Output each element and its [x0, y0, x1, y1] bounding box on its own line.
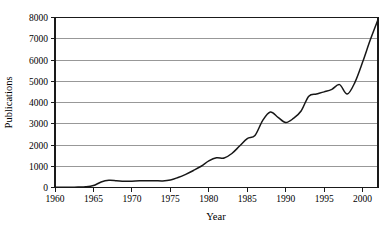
y-tick-label-8000: 8000	[29, 13, 48, 23]
y-tick-label-3000: 3000	[29, 119, 48, 129]
y-axis-title: Publications	[3, 77, 14, 129]
x-tick-label-1990: 1990	[276, 194, 295, 204]
y-tick-label-1000: 1000	[29, 162, 48, 172]
x-tick-label-1980: 1980	[199, 194, 218, 204]
y-tick-label-6000: 6000	[29, 56, 48, 66]
x-tick-labels: 1960 1965 1970 1975 1980 1985 1990 1995 …	[46, 194, 373, 204]
y-tickmarks	[51, 18, 55, 188]
y-tick-label-4000: 4000	[29, 98, 48, 108]
x-tick-label-1985: 1985	[238, 194, 257, 204]
x-tick-label-1975: 1975	[161, 194, 180, 204]
y-tick-labels: 8000 7000 6000 5000 4000 3000 2000 1000 …	[29, 13, 48, 193]
x-tick-label-2000: 2000	[353, 194, 372, 204]
y-tick-label-5000: 5000	[29, 77, 48, 87]
gridlines	[55, 18, 378, 167]
x-axis-title: Year	[206, 211, 226, 222]
chart-canvas: 8000 7000 6000 5000 4000 3000 2000 1000 …	[0, 0, 389, 232]
y-tick-label-7000: 7000	[29, 34, 48, 44]
x-tick-label-1970: 1970	[122, 194, 141, 204]
x-tick-label-1995: 1995	[315, 194, 334, 204]
series-line-publications	[55, 20, 378, 188]
publications-line-chart-figure: 8000 7000 6000 5000 4000 3000 2000 1000 …	[0, 0, 389, 232]
x-tick-label-1965: 1965	[84, 194, 103, 204]
x-tick-label-1960: 1960	[46, 194, 65, 204]
y-tick-label-0: 0	[43, 183, 48, 193]
x-tickmarks	[55, 188, 363, 192]
y-tick-label-2000: 2000	[29, 141, 48, 151]
